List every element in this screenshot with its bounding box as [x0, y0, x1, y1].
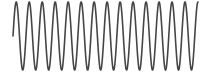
sine-wave-chart: [0, 0, 210, 78]
